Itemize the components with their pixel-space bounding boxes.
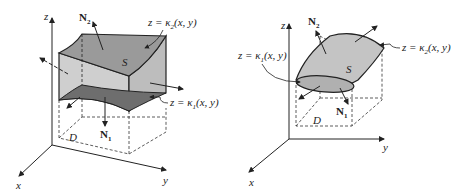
x-axis-label: x bbox=[15, 179, 21, 191]
top-surface-equation: z = κ2(x, y) bbox=[147, 16, 197, 31]
normal-N1-label: N1 bbox=[336, 105, 348, 120]
y-axis-label: y bbox=[382, 141, 388, 153]
right-figure: z y x D S N2 N1 z = κ1(x, y) z = κ2(x, y… bbox=[237, 15, 451, 188]
x-axis bbox=[249, 139, 289, 172]
normal-N2-label: N2 bbox=[308, 15, 320, 30]
surface-S-label: S bbox=[346, 63, 352, 75]
right-surface-equation: z = κ2(x, y) bbox=[401, 41, 451, 56]
y-axis bbox=[52, 145, 166, 170]
y-axis-label: y bbox=[162, 174, 168, 186]
normal-N2-label: N2 bbox=[79, 11, 91, 26]
left-surface-equation: z = κ1(x, y) bbox=[237, 49, 287, 64]
region-D-label: D bbox=[312, 114, 321, 126]
z-axis-label: z bbox=[280, 19, 286, 31]
normal-N1-label: N1 bbox=[100, 128, 112, 143]
divergence-theorem-diagrams: z y x D S N2 N1 z = κ2(x, y) z = κ1(x, y… bbox=[0, 0, 465, 196]
region-D-label: D bbox=[68, 131, 77, 143]
z-axis-label: z bbox=[43, 10, 49, 22]
bottom-surface-equation: z = κ1(x, y) bbox=[169, 96, 219, 111]
left-figure: z y x D S N2 N1 z = κ2(x, y) z = κ1(x, y… bbox=[15, 10, 219, 191]
x-axis-label: x bbox=[248, 176, 254, 188]
x-axis bbox=[19, 145, 52, 176]
surface-S-label: S bbox=[122, 56, 128, 68]
